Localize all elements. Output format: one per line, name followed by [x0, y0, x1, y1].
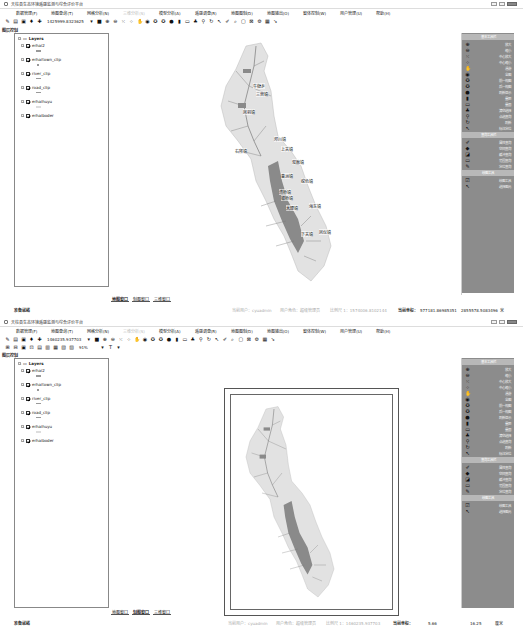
zoom-level-select[interactable]: 91% [77, 345, 97, 350]
measure-area-icon[interactable]: ♣ [193, 19, 198, 24]
menu-data-management[interactable]: 数据管理(F) [16, 10, 37, 16]
layer-checkbox[interactable] [26, 397, 30, 401]
layer-item[interactable]: +erhai2 [21, 43, 45, 48]
identify-icon[interactable]: ⚲ [198, 337, 203, 342]
pointer-icon[interactable]: ↖ [214, 337, 219, 342]
menu-grid-analysis[interactable]: 网格分析(N) [87, 328, 109, 334]
tab-map-window[interactable]: 地图窗口 [111, 296, 129, 302]
select-icon[interactable]: ■ [94, 337, 99, 342]
layer-item[interactable]: +road_clip [21, 85, 50, 90]
layer-checkbox[interactable] [26, 439, 30, 443]
menu-map-query[interactable]: 地图查询(T) [51, 328, 73, 334]
add-data-icon[interactable]: ✚ [37, 337, 42, 342]
minimize-button[interactable] [491, 320, 497, 324]
refresh-icon[interactable]: ● [169, 19, 174, 24]
open-icon[interactable]: ▤ [13, 19, 18, 24]
building-icon[interactable]: ▮ [174, 337, 179, 342]
layer-add-icon[interactable]: ♦ [29, 19, 34, 24]
layer-checkbox[interactable] [26, 383, 30, 387]
query-icon[interactable]: ⌕ [230, 337, 235, 342]
pencil-icon[interactable]: ✎ [5, 19, 10, 24]
expand-icon[interactable]: + [21, 411, 24, 414]
dropdown-icon[interactable]: ▾ [100, 345, 105, 350]
draw-icon[interactable]: ▦ [265, 19, 270, 24]
expand-icon[interactable]: + [21, 58, 24, 61]
expand-icon[interactable]: + [21, 369, 24, 372]
draw-icon[interactable]: ▦ [262, 337, 267, 342]
layer-checkbox[interactable] [26, 411, 30, 415]
pan-icon[interactable]: ✋ [134, 337, 139, 342]
open-icon[interactable]: ▤ [13, 337, 18, 342]
layout-canvas[interactable] [111, 358, 462, 608]
select-icon[interactable]: ■ [97, 19, 102, 24]
tab-layout-window[interactable]: 制图窗口 [132, 609, 150, 615]
layout-100-icon[interactable]: ▤ [37, 345, 42, 350]
tools-icon[interactable]: ⚙ [257, 19, 262, 24]
menu-user-management[interactable]: 用户管理(U) [340, 328, 362, 334]
maximize-button[interactable] [499, 2, 505, 6]
maximize-button[interactable] [499, 320, 505, 324]
menu-window-control[interactable]: 窗体控制(W) [303, 328, 326, 334]
layer-checkbox[interactable] [26, 86, 30, 90]
tab-3d-window[interactable]: 三维窗口 [153, 609, 171, 615]
export-icon[interactable]: ⊠ [249, 19, 254, 24]
add-data-icon[interactable]: ✚ [37, 19, 42, 24]
measure-icon[interactable]: ▭ [185, 19, 190, 24]
menu-map-output[interactable]: 地图输出(O) [267, 10, 289, 16]
fixed-zoom-out-icon[interactable]: ⁘ [126, 337, 131, 342]
minimize-button[interactable] [491, 2, 497, 6]
tab-3d-window[interactable]: 三维窗口 [153, 296, 171, 302]
cursor-icon[interactable]: ➘ [270, 337, 275, 342]
prev-extent-icon[interactable]: ✪ [153, 19, 158, 24]
save-icon[interactable]: ▣ [21, 19, 26, 24]
layer-checkbox[interactable] [26, 114, 30, 118]
layer-tree-root[interactable]: − ▭ Layers [18, 36, 44, 41]
layer-checkbox[interactable] [26, 72, 30, 76]
menu-grid-analysis[interactable]: 网格分析(N) [87, 10, 109, 16]
screen-icon[interactable]: ▢ [241, 19, 246, 24]
layer-item[interactable]: +erhai2 [21, 368, 45, 373]
fixed-zoom-in-icon[interactable]: ⁙ [121, 19, 126, 24]
layer-item[interactable]: +river_clip [21, 396, 50, 401]
query-icon[interactable]: ⌕ [233, 19, 238, 24]
expand-icon[interactable]: + [21, 44, 24, 47]
expand-icon[interactable]: + [21, 425, 24, 428]
prev-extent-icon[interactable]: ✪ [150, 337, 155, 342]
pencil-icon[interactable]: ✎ [5, 337, 10, 342]
refresh-icon[interactable]: ● [166, 337, 171, 342]
layout-pan-icon[interactable]: ▣ [21, 345, 26, 350]
expand-icon[interactable]: + [21, 397, 24, 400]
menu-help[interactable]: 帮助(H) [376, 328, 390, 334]
layer-item[interactable]: +river_clip [21, 71, 50, 76]
edit-icon[interactable]: ✐ [222, 337, 227, 342]
pan-icon[interactable]: ✋ [137, 19, 142, 24]
dropdown-icon[interactable]: ▾ [116, 345, 121, 350]
layer-item[interactable]: +erhaitown_clip [21, 382, 61, 387]
layer-item[interactable]: +road_clip [21, 410, 50, 415]
fixed-zoom-in-icon[interactable]: ⁙ [118, 337, 123, 342]
layer-checkbox[interactable] [26, 58, 30, 62]
expand-icon[interactable]: + [21, 100, 24, 103]
menu-3d-analysis[interactable]: 三维分析(S) [123, 328, 145, 334]
tool-locate-query[interactable]: ✎定位查询 [462, 488, 514, 494]
layout-next-icon[interactable]: ▨ [69, 345, 74, 350]
layout-fixed-in-icon[interactable]: ▥ [45, 345, 50, 350]
measure-area-icon[interactable]: ♣ [190, 337, 195, 342]
tool-select-element[interactable]: ↖选择图元 [462, 508, 514, 514]
collapse-icon[interactable]: − [18, 37, 21, 40]
dropdown-icon[interactable]: ▾ [89, 19, 94, 24]
expand-icon[interactable]: + [21, 72, 24, 75]
tool-locate-query[interactable]: ✎定位查询 [462, 163, 514, 169]
zoom-out-icon[interactable]: ⊖ [113, 19, 118, 24]
dropdown-icon[interactable]: ▾ [86, 337, 91, 342]
export-icon[interactable]: ⊠ [246, 337, 251, 342]
layer-item[interactable]: +erhaiboder [21, 438, 54, 443]
layout-prev-icon[interactable]: ▧ [61, 345, 66, 350]
layer-checkbox[interactable] [26, 100, 30, 104]
zoom-out-icon[interactable]: ⊖ [110, 337, 115, 342]
layout-zoom-in-icon[interactable]: ⊞ [5, 345, 10, 350]
screen-icon[interactable]: ▢ [238, 337, 243, 342]
building-icon[interactable]: ▮ [177, 19, 182, 24]
map-frame[interactable] [230, 394, 393, 610]
menu-map-output[interactable]: 地图输出(O) [267, 328, 289, 334]
